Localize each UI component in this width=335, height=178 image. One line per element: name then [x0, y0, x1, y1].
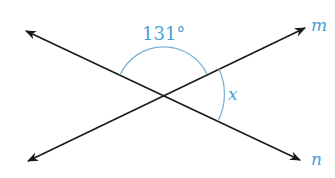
- diagram-canvas: 131° x m n: [0, 0, 335, 178]
- angle-arc-131: [120, 47, 207, 75]
- line-m: [28, 28, 305, 161]
- angle-label-131: 131°: [142, 23, 185, 44]
- line-label-n: n: [311, 149, 322, 169]
- angle-arc-x: [218, 69, 224, 121]
- line-label-m: m: [311, 15, 327, 35]
- angle-label-x: x: [228, 84, 238, 104]
